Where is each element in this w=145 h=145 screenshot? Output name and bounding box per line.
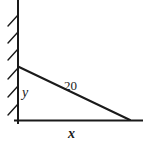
hatch-mark-icon xyxy=(8,15,18,26)
hypotenuse-line xyxy=(18,67,130,121)
hypotenuse-length-label: 20 xyxy=(64,79,77,92)
hatch-mark-icon xyxy=(8,86,18,97)
axes-group xyxy=(14,0,143,124)
hatch-mark-icon xyxy=(8,32,18,43)
hypotenuse-group xyxy=(18,67,130,121)
hatch-mark-icon xyxy=(8,104,18,115)
scan-artifact-mark xyxy=(3,17,9,29)
vertical-leg-label: y xyxy=(22,86,28,100)
hatch-marks-group xyxy=(8,15,18,115)
hatch-mark-icon xyxy=(8,49,18,60)
horizontal-leg-label: x xyxy=(68,127,75,141)
hatch-mark-icon xyxy=(8,68,18,79)
geometry-figure: 20 y x xyxy=(0,0,145,145)
figure-canvas xyxy=(0,0,145,145)
